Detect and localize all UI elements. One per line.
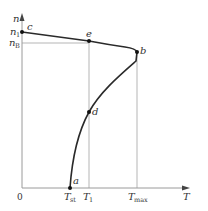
point-c: [20, 30, 24, 34]
label-a: a: [73, 175, 79, 186]
label-e: e: [86, 28, 92, 39]
y-axis-arrow-icon: [20, 13, 25, 21]
svg-text:1: 1: [89, 196, 93, 204]
point-d: [87, 110, 91, 114]
svg-text:max: max: [134, 196, 148, 204]
diagram-canvas: c e b d a n n 1 n B 0 T st T 1 T max T: [0, 0, 208, 211]
svg-text:B: B: [15, 42, 20, 50]
x-axis-label: T: [183, 191, 191, 202]
point-b: [135, 50, 139, 54]
xtick-T1: T 1: [83, 191, 93, 204]
label-c: c: [27, 21, 33, 32]
point-e: [87, 39, 91, 43]
svg-text:st: st: [70, 196, 76, 204]
origin-label: 0: [17, 192, 23, 202]
curve-lower: [70, 52, 137, 188]
xtick-Tst: T st: [64, 191, 76, 204]
y-axis-label: n: [13, 13, 19, 24]
xtick-Tmax: T max: [128, 191, 148, 204]
svg-text:1: 1: [16, 31, 20, 39]
curve-upper: [22, 32, 137, 52]
point-a: [68, 186, 72, 190]
label-b: b: [140, 45, 146, 56]
label-d: d: [92, 106, 98, 117]
x-axis-arrow-icon: [182, 186, 190, 191]
